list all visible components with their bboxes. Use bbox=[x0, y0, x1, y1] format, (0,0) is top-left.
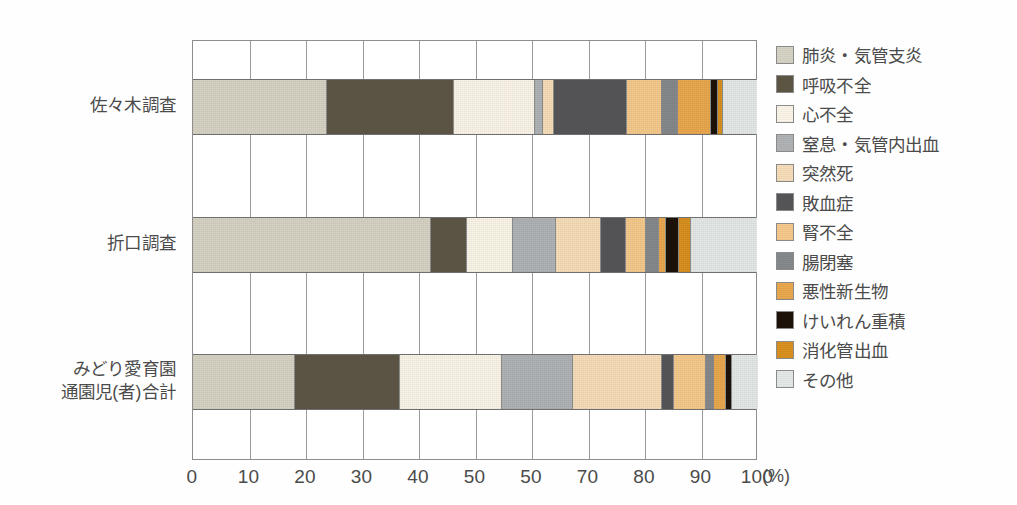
bar-segment bbox=[501, 355, 571, 409]
bar-3 bbox=[193, 354, 756, 410]
plot-area bbox=[192, 40, 757, 460]
legend-label: 腸閉塞 bbox=[802, 249, 854, 274]
bar-segment bbox=[713, 355, 724, 409]
legend-item-9[interactable]: 悪性新生物 bbox=[776, 280, 940, 301]
bar-segment bbox=[572, 355, 662, 409]
category-label-1: 佐々木調査 bbox=[90, 94, 176, 117]
category-label-line: 通園児(者)合計 bbox=[61, 381, 176, 404]
legend-item-10[interactable]: けいれん重積 bbox=[776, 310, 940, 331]
bar-segment bbox=[661, 80, 677, 134]
bar-segment bbox=[294, 355, 399, 409]
bar-2 bbox=[193, 217, 756, 273]
bar-segment bbox=[326, 80, 453, 134]
legend-item-8[interactable]: 腸閉塞 bbox=[776, 251, 940, 272]
axis-unit-label: (%) bbox=[762, 466, 790, 487]
legend-item-11[interactable]: 消化管出血 bbox=[776, 339, 940, 360]
x-tick-label-0: 0 bbox=[187, 466, 198, 488]
bar-segment bbox=[673, 355, 705, 409]
legend-item-3[interactable]: 心不全 bbox=[776, 103, 940, 124]
legend-label: けいれん重積 bbox=[802, 308, 905, 333]
legend-swatch-icon bbox=[776, 164, 794, 182]
bar-segment bbox=[534, 80, 542, 134]
category-label-line: みどり愛育園 bbox=[61, 358, 176, 381]
bar-segment bbox=[430, 218, 466, 272]
category-label-line: 佐々木調査 bbox=[90, 94, 176, 117]
legend-item-7[interactable]: 腎不全 bbox=[776, 221, 940, 242]
x-tick-label-70: 70 bbox=[577, 466, 599, 488]
legend-label: 突然死 bbox=[802, 160, 854, 185]
bar-segment bbox=[725, 355, 732, 409]
legend-swatch-icon bbox=[776, 134, 794, 152]
legend-label: 悪性新生物 bbox=[802, 278, 888, 303]
bar-segment bbox=[665, 218, 678, 272]
legend-label: 窒息・気管内出血 bbox=[802, 131, 940, 156]
category-axis-labels: 佐々木調査折口調査みどり愛育園通園児(者)合計 bbox=[0, 0, 186, 505]
bar-segment bbox=[512, 218, 555, 272]
x-tick-label-30: 30 bbox=[351, 466, 373, 488]
category-label-2: 折口調査 bbox=[107, 232, 176, 255]
legend-swatch-icon bbox=[776, 193, 794, 211]
x-tick-label-10: 10 bbox=[238, 466, 260, 488]
bar-segment bbox=[600, 218, 625, 272]
bar-segment bbox=[677, 80, 711, 134]
bar-segment bbox=[193, 80, 326, 134]
bar-segment bbox=[542, 80, 553, 134]
bar-segment bbox=[625, 218, 645, 272]
legend-swatch-icon bbox=[776, 282, 794, 300]
x-tick-label-20: 20 bbox=[294, 466, 316, 488]
bar-segment bbox=[678, 218, 690, 272]
legend-item-5[interactable]: 突然死 bbox=[776, 162, 940, 183]
bar-segment bbox=[193, 355, 294, 409]
category-label-3: みどり愛育園通園児(者)合計 bbox=[61, 358, 176, 404]
legend-label: 消化管出血 bbox=[802, 337, 888, 362]
legend-label: 呼吸不全 bbox=[802, 72, 871, 97]
legend-label: 心不全 bbox=[802, 101, 854, 126]
legend-swatch-icon bbox=[776, 223, 794, 241]
x-tick-label-80: 80 bbox=[633, 466, 655, 488]
x-tick-label-60: 50 bbox=[520, 466, 542, 488]
legend-item-12[interactable]: その他 bbox=[776, 369, 940, 390]
bar-segment bbox=[705, 355, 713, 409]
legend-swatch-icon bbox=[776, 46, 794, 64]
legend-swatch-icon bbox=[776, 75, 794, 93]
bar-1 bbox=[193, 79, 756, 135]
legend-swatch-icon bbox=[776, 341, 794, 359]
stacked-bar-chart: 佐々木調査折口調査みどり愛育園通園児(者)合計 0102030405050708… bbox=[0, 0, 1017, 505]
legend-swatch-icon bbox=[776, 252, 794, 270]
bar-segment bbox=[553, 80, 626, 134]
bar-segment bbox=[658, 218, 665, 272]
legend-label: 敗血症 bbox=[802, 190, 854, 215]
x-tick-label-40: 40 bbox=[407, 466, 429, 488]
legend-item-4[interactable]: 窒息・気管内出血 bbox=[776, 133, 940, 154]
legend-swatch-icon bbox=[776, 105, 794, 123]
bar-segment bbox=[731, 355, 758, 409]
bar-segment bbox=[645, 218, 658, 272]
bar-segment bbox=[193, 218, 430, 272]
bar-segment bbox=[722, 80, 757, 134]
legend-label: 腎不全 bbox=[802, 219, 854, 244]
bar-segment bbox=[466, 218, 511, 272]
bar-segment bbox=[626, 80, 661, 134]
category-label-line: 折口調査 bbox=[107, 232, 176, 255]
legend-item-6[interactable]: 敗血症 bbox=[776, 192, 940, 213]
value-axis: 0102030405050708090100 bbox=[192, 462, 757, 496]
legend-swatch-icon bbox=[776, 311, 794, 329]
legend: 肺炎・気管支炎呼吸不全心不全窒息・気管内出血突然死敗血症腎不全腸閉塞悪性新生物け… bbox=[776, 44, 940, 390]
x-tick-label-90: 90 bbox=[690, 466, 712, 488]
bar-segment bbox=[453, 80, 534, 134]
bar-segment bbox=[661, 355, 673, 409]
legend-swatch-icon bbox=[776, 370, 794, 388]
legend-item-2[interactable]: 呼吸不全 bbox=[776, 74, 940, 95]
legend-item-1[interactable]: 肺炎・気管支炎 bbox=[776, 44, 940, 65]
bar-segment bbox=[555, 218, 601, 272]
bar-segment bbox=[399, 355, 501, 409]
legend-label: 肺炎・気管支炎 bbox=[802, 42, 922, 67]
legend-label: その他 bbox=[802, 367, 854, 392]
x-tick-label-50: 50 bbox=[464, 466, 486, 488]
bar-segment bbox=[690, 218, 757, 272]
